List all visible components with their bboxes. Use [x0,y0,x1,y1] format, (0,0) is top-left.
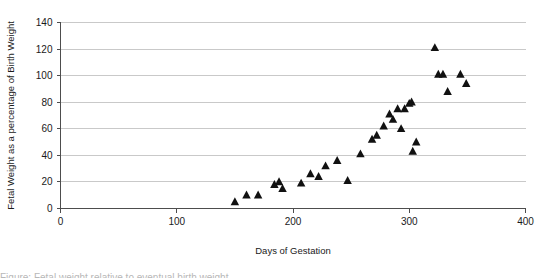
x-tick-label-400: 400 [517,216,534,227]
y-tick-label-60: 60 [41,123,53,134]
data-point-0-18 [393,104,401,112]
data-point-0-28 [443,87,451,95]
data-point-0-1 [242,191,250,199]
data-point-0-14 [372,131,380,139]
data-point-0-12 [356,149,364,157]
x-tick-label-300: 300 [401,216,418,227]
data-point-0-6 [297,179,305,187]
figure-caption: Figure: Fetal weight relative to eventua… [0,272,542,278]
y-tick-label-120: 120 [36,44,53,55]
x-axis-ticks: 0100200300400 [58,209,535,227]
data-point-0-30 [462,79,470,87]
y-tick-label-40: 40 [41,150,53,161]
data-point-0-8 [314,172,322,180]
y-tick-label-140: 140 [36,17,53,28]
y-tick-label-20: 20 [41,176,53,187]
data-point-0-19 [397,124,405,132]
scatter-chart: 020406080100120140 0100200300400 Days of… [0,0,542,278]
data-point-0-4 [275,177,283,185]
x-tick-label-200: 200 [285,216,302,227]
y-tick-label-100: 100 [36,70,53,81]
data-point-0-0 [231,197,239,205]
y-axis-ticks: 020406080100120140 [36,17,61,214]
data-point-0-15 [379,122,387,130]
data-point-0-9 [321,161,329,169]
data-points [231,43,471,205]
y-tick-label-80: 80 [41,97,53,108]
data-point-0-24 [412,137,420,145]
data-point-0-7 [306,169,314,177]
figure-container: 020406080100120140 0100200300400 Days of… [0,0,542,278]
data-point-0-2 [254,191,262,199]
grid-lines [61,23,526,182]
x-axis-title: Days of Gestation [255,245,331,256]
data-point-0-25 [431,43,439,51]
y-tick-label-0: 0 [47,203,53,214]
data-point-0-11 [343,176,351,184]
y-axis-title: Fetal Weight as a percentage of Birth We… [5,21,16,210]
data-point-0-23 [409,147,417,155]
data-point-0-29 [456,70,464,78]
x-tick-label-0: 0 [58,216,64,227]
data-point-0-10 [333,156,341,164]
x-tick-label-100: 100 [168,216,185,227]
